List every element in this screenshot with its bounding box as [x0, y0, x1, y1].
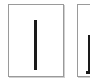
page-thumbnail-2[interactable]	[77, 4, 90, 77]
vertical-bar-icon	[88, 35, 90, 73]
page-thumbnail-1[interactable]	[8, 4, 64, 77]
glyph-foot-icon	[86, 71, 90, 74]
vertical-bar-icon	[34, 20, 37, 70]
